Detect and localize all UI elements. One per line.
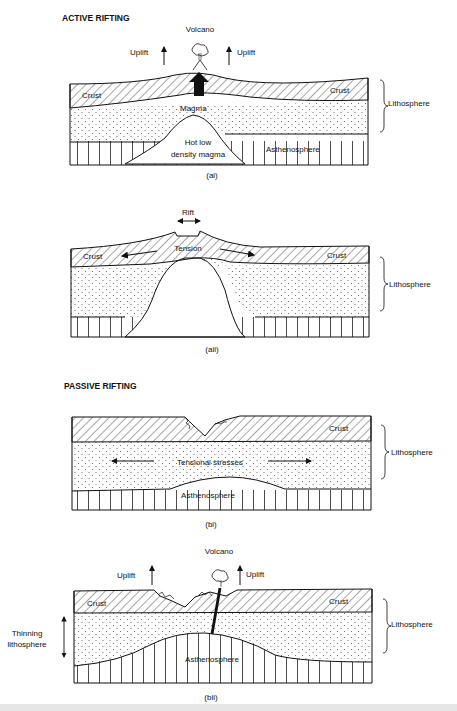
asthenosphere-label: Asthenosphere (185, 655, 239, 664)
crust-left-label: Crust (82, 91, 102, 100)
uplift-right-label: Uplift (237, 48, 256, 57)
hot-magma-label-1: Hot low (185, 138, 212, 147)
crust-right-label: Crust (327, 251, 347, 260)
caption-ai: (ai) (206, 171, 218, 180)
uplift-left-label: Uplift (130, 48, 149, 57)
caption-bii: (bii) (204, 693, 218, 702)
uplift-right-label: Uplift (246, 570, 265, 579)
panel-bii: Volcano Uplift Uplift Crust Crust Thinni… (7, 547, 433, 702)
volcano-plume-icon (192, 44, 208, 56)
volcano-label: Volcano (186, 25, 215, 34)
lithosphere-label: Lithosphere (388, 99, 430, 108)
caption-bi: (bi) (205, 520, 217, 529)
uplift-left-label: Uplift (117, 571, 136, 580)
asthenosphere-label: Asthenosphere (181, 491, 235, 500)
thinning-label-1: Thinning (12, 629, 43, 638)
volcano-plume-icon (212, 570, 228, 582)
lithosphere-label: Lithosphere (391, 448, 433, 457)
tension-label: Tension (174, 244, 202, 253)
active-rifting-heading: ACTIVE RIFTING (62, 13, 130, 23)
volcano-label: Volcano (205, 547, 234, 556)
thinning-label-2: lithosphere (7, 640, 47, 649)
lithosphere-brace-icon (381, 425, 389, 479)
panel-aii: Rift Tension Crust Crust Lithosphere (ai… (71, 208, 431, 354)
magma-label: Magma (180, 104, 207, 113)
tensional-stresses-label: Tensional stresses (177, 458, 243, 467)
rift-label: Rift (182, 208, 195, 217)
caption-aii: (aii) (205, 345, 219, 354)
rifting-diagram: ACTIVE RIFTING Volcano Uplift Uplift Cru… (0, 0, 457, 711)
crust-label: Crust (329, 424, 349, 433)
asthenosphere-label: Asthenosphere (266, 145, 320, 154)
lithosphere-brace-icon (380, 257, 388, 311)
bottom-edge-bar (0, 704, 457, 711)
lithosphere-label: Lithosphere (389, 280, 431, 289)
panel-bi: Crust Tensional stresses Asthenosphere L… (72, 416, 433, 529)
crust-left-label: Crust (83, 252, 103, 261)
lithosphere-brace-icon (383, 599, 391, 653)
lithosphere-label: Lithosphere (391, 620, 433, 629)
crust-right-label: Crust (330, 86, 350, 95)
crust-left-label: Crust (87, 599, 107, 608)
hot-magma-label-2: density magma (171, 150, 226, 159)
passive-rifting-heading: PASSIVE RIFTING (64, 381, 137, 391)
lithosphere-brace-icon (380, 80, 388, 132)
panel-ai: Volcano Uplift Uplift Crust Crust Magma … (70, 25, 430, 180)
crust-right-label: Crust (329, 597, 349, 606)
